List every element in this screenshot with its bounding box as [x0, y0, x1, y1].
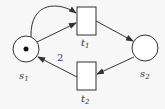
label-t1: t1: [81, 37, 90, 50]
arc-s1-t1-curved: [31, 6, 76, 37]
petri-net-diagram: 2 s1 s2 t1 t2: [0, 0, 165, 109]
token: [24, 47, 29, 52]
label-t2: t2: [81, 93, 90, 106]
label-s2: s2: [140, 68, 150, 81]
arc-s1-t1: [37, 23, 76, 42]
place-s2: [132, 35, 158, 61]
arc-t1-s2: [96, 21, 133, 41]
transition-t1: [77, 7, 96, 35]
arc-weight-label: 2: [57, 52, 63, 63]
arc-s2-t2: [97, 57, 134, 74]
label-s1: s1: [19, 70, 29, 83]
transition-t2: [77, 62, 96, 90]
place-s1: [13, 36, 39, 62]
